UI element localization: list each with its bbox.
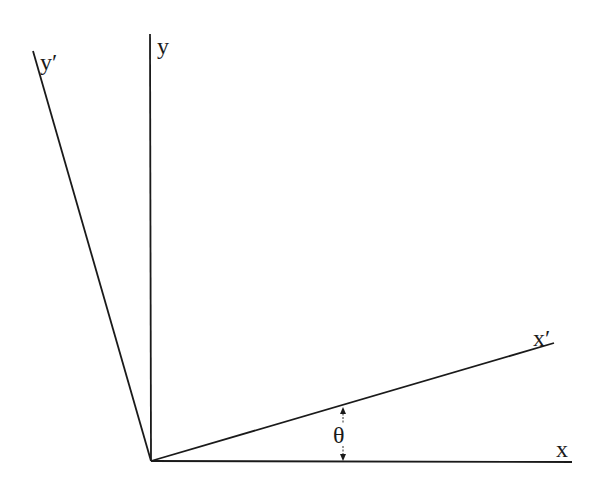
x-axis-label: x bbox=[556, 436, 568, 462]
x-prime-axis bbox=[151, 343, 554, 461]
y-axis bbox=[150, 34, 151, 461]
x-axis bbox=[151, 461, 572, 462]
y-prime-axis-label: y′ bbox=[40, 49, 57, 75]
x-prime-axis-label: x′ bbox=[533, 325, 550, 351]
y-axis-label: y bbox=[157, 33, 169, 59]
theta-label: θ bbox=[333, 422, 345, 448]
rotated-axes-diagram: y y′ x′ x θ bbox=[0, 0, 600, 482]
y-prime-axis bbox=[33, 51, 151, 461]
